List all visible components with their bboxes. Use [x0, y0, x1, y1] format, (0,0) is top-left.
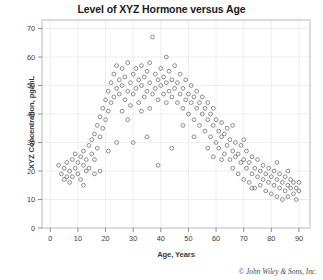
data-point	[261, 178, 265, 182]
data-point	[93, 172, 97, 176]
data-point	[129, 104, 133, 108]
data-point	[220, 121, 224, 125]
gridlines	[42, 20, 310, 228]
data-point	[82, 149, 86, 153]
data-point	[156, 98, 160, 102]
data-point	[123, 75, 127, 79]
data-point	[209, 135, 213, 139]
data-point	[170, 146, 174, 150]
data-point	[250, 186, 254, 190]
data-point	[225, 143, 229, 147]
data-point	[156, 78, 160, 82]
data-point	[292, 181, 296, 185]
data-point	[62, 166, 66, 170]
data-point	[278, 172, 282, 176]
data-point	[115, 86, 119, 90]
data-point	[192, 95, 196, 99]
data-point	[245, 149, 249, 153]
data-point	[217, 146, 221, 150]
data-point	[222, 152, 226, 156]
y-tick-label: 70	[15, 24, 35, 33]
x-tick-label: 60	[204, 234, 228, 243]
data-point	[153, 86, 157, 90]
tick-marks	[38, 29, 299, 232]
data-point	[203, 129, 207, 133]
data-point	[283, 175, 287, 179]
data-point	[142, 75, 146, 79]
data-point	[68, 181, 72, 185]
data-point	[206, 118, 210, 122]
data-point	[93, 132, 97, 136]
data-point	[106, 89, 110, 93]
data-point	[231, 124, 235, 128]
data-point	[98, 135, 102, 139]
data-point	[211, 124, 215, 128]
data-point	[195, 106, 199, 110]
data-point	[140, 109, 144, 113]
data-point	[170, 78, 174, 82]
data-point	[195, 89, 199, 93]
data-point	[184, 98, 188, 102]
data-point	[87, 143, 91, 147]
data-point	[120, 67, 124, 71]
y-tick-label: 20	[15, 167, 35, 176]
data-point	[250, 155, 254, 159]
x-tick-label: 10	[66, 234, 90, 243]
data-point	[162, 75, 166, 79]
data-point	[134, 86, 138, 90]
data-point	[151, 35, 155, 39]
data-point	[181, 86, 185, 90]
y-tick-label: 30	[15, 138, 35, 147]
copyright-notice: © John Wiley & Sons, Inc.	[239, 267, 317, 276]
data-point	[129, 81, 133, 85]
data-point	[90, 138, 94, 142]
data-point	[95, 146, 99, 150]
y-tick-label: 40	[15, 110, 35, 119]
data-point	[120, 109, 124, 113]
scatter-chart-figure: Level of XYZ Hormone versus Age XYZ Conc…	[0, 0, 323, 280]
data-point	[236, 172, 240, 176]
data-point	[70, 175, 74, 179]
data-point	[206, 146, 210, 150]
data-point	[181, 106, 185, 110]
data-point	[211, 155, 215, 159]
data-point	[167, 89, 171, 93]
data-point	[225, 126, 229, 130]
data-point	[137, 101, 141, 105]
data-point	[170, 95, 174, 99]
data-point	[231, 149, 235, 153]
data-point	[126, 118, 130, 122]
x-tick-label: 80	[259, 234, 283, 243]
data-point	[198, 101, 202, 105]
data-point	[203, 106, 207, 110]
data-point	[142, 95, 146, 99]
data-point	[109, 101, 113, 105]
data-point	[87, 166, 91, 170]
data-point	[261, 163, 265, 167]
data-point	[123, 98, 127, 102]
data-point	[106, 109, 110, 113]
data-point	[156, 163, 160, 167]
x-tick-label: 20	[94, 234, 118, 243]
data-point	[275, 178, 279, 182]
data-point	[65, 161, 69, 165]
data-point	[59, 172, 63, 176]
data-point	[264, 172, 268, 176]
data-point	[272, 183, 276, 187]
data-point	[292, 192, 296, 196]
data-point	[289, 186, 293, 190]
data-point	[70, 158, 74, 162]
data-point	[250, 172, 254, 176]
data-point	[65, 175, 69, 179]
data-point	[73, 152, 77, 156]
data-point	[200, 95, 204, 99]
data-point	[134, 67, 138, 71]
data-point	[153, 72, 157, 76]
data-point	[126, 89, 130, 93]
y-tick-label: 60	[15, 53, 35, 62]
data-points	[57, 35, 301, 201]
data-point	[267, 181, 271, 185]
data-point	[79, 178, 83, 182]
data-point	[253, 166, 257, 170]
data-point	[175, 81, 179, 85]
